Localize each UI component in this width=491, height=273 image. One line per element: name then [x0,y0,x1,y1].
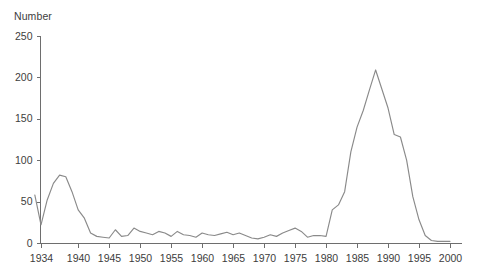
x-tick-group: 1934194019451950195519601965197019751980… [30,244,463,264]
x-tick-label: 1980 [315,252,339,264]
x-tick-label: 1965 [222,252,246,264]
y-tick-label: 150 [15,112,33,124]
x-tick-label: 2000 [439,252,463,264]
x-tick-label: 1955 [160,252,184,264]
x-tick-label: 1934 [30,252,54,264]
y-tick-label: 250 [15,30,33,42]
y-tick-label: 50 [21,195,33,207]
x-tick-label: 1975 [284,252,308,264]
x-axis: 1934194019451950195519601965197019751980… [30,244,463,265]
y-tick-label: 100 [15,154,33,166]
y-tick-group: 050100150200250 [15,30,41,249]
x-tick-label: 1950 [129,252,153,264]
x-tick-label: 1940 [67,252,91,264]
x-tick-label: 1990 [377,252,401,264]
x-tick-label: 1985 [346,252,370,264]
x-tick-label: 1945 [98,252,122,264]
x-tick-label: 1970 [253,252,277,264]
y-tick-label: 0 [27,237,33,249]
data-series-line [35,70,450,241]
x-tick-label: 1960 [191,252,215,264]
x-tick-label: 1995 [408,252,432,264]
chart-container: Number 050100150200250 19341940194519501… [0,0,491,273]
y-axis: 050100150200250 [15,30,41,249]
y-tick-label: 200 [15,71,33,83]
line-chart-plot: 050100150200250 193419401945195019551960… [0,0,491,273]
